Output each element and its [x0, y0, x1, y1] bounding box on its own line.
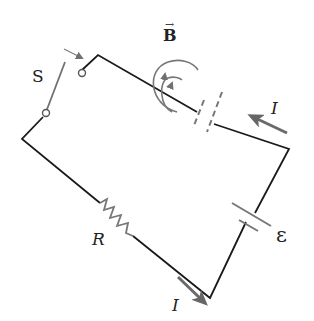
battery [232, 203, 271, 231]
magnetic-field-loops [153, 60, 198, 112]
switch-arrow-icon [64, 49, 82, 58]
circuit-diagram [0, 0, 314, 321]
vector-arrow-icon: → [165, 19, 174, 30]
current-arrow-top-icon [251, 116, 287, 133]
current-label-top: I [271, 100, 278, 117]
current-label-bottom: I [172, 297, 179, 314]
resistor-label: R [92, 231, 105, 248]
magnetic-field-label: → B [163, 28, 177, 44]
switch[interactable] [43, 49, 86, 117]
switch-terminal-upper [79, 70, 86, 77]
emf-label: ε [276, 225, 287, 246]
switch-terminal-lower [43, 110, 50, 117]
switch-label: S [32, 68, 44, 85]
